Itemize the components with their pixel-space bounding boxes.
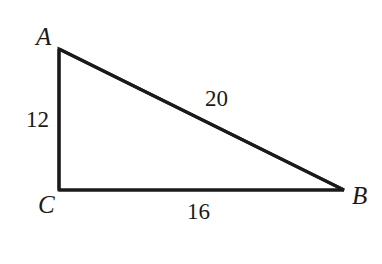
side-length-label-ab: 20 — [205, 87, 228, 110]
vertex-label-c: C — [38, 192, 55, 217]
triangle-diagram: A B C 12 16 20 — [0, 0, 382, 264]
side-length-label-cb: 16 — [187, 200, 210, 223]
triangle-side-ab — [59, 49, 344, 190]
vertex-label-b: B — [352, 183, 367, 208]
vertex-label-a: A — [36, 24, 51, 49]
triangle-drawing — [0, 0, 382, 264]
side-length-label-ac: 12 — [26, 108, 49, 131]
